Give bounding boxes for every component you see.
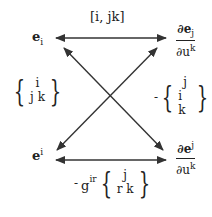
minus-sign: - (74, 176, 78, 190)
fraction-denominator: ∂uk (176, 159, 195, 177)
upper-index: i (36, 77, 40, 91)
symbol-indices: ij k (29, 77, 46, 105)
close-brace: } (50, 76, 61, 106)
diagonal-arrow-bl-tr (57, 48, 157, 150)
symbol-indices: ji k (177, 76, 193, 117)
lower-indices: r k (117, 183, 134, 197)
close-brace: } (197, 82, 208, 112)
lower-indices: i k (178, 90, 192, 118)
denominator-base: ∂u (176, 45, 190, 59)
fraction-numerator: ∂ej (176, 22, 195, 41)
diagonal-arrow-tl-br (64, 48, 163, 150)
node-de-sup-j-du-k-bottom: ∂ej ∂uk (176, 140, 195, 177)
node-e-sup-i: ei (32, 148, 43, 162)
open-brace: { (162, 82, 173, 112)
numerator-superscript: j (191, 140, 194, 150)
numerator-subscript: j (191, 28, 194, 38)
node-superscript: i (40, 147, 43, 157)
denominator-superscript: k (190, 161, 195, 171)
metric-christoffel-bottom: - gir { jr k } (74, 168, 154, 198)
node-de-j-du-k-top: ∂ej ∂uk (176, 22, 195, 59)
node-subscript: i (40, 37, 43, 47)
fraction-numerator: ∂ej (176, 140, 195, 159)
metric-g: gir (81, 174, 97, 193)
open-brace: { (100, 168, 111, 198)
metric-superscript: ir (89, 174, 96, 184)
christoffel-symbol-left: { ij k } (10, 76, 65, 106)
upper-index: j (183, 76, 187, 90)
open-brace: { (14, 76, 25, 106)
fraction-denominator: ∂uk (176, 41, 195, 59)
denominator-base: ∂u (176, 163, 190, 177)
christoffel-symbol-right: - { ji k } (154, 76, 212, 117)
top-edge-label: [i, jk] (90, 10, 124, 23)
lower-indices: j k (30, 91, 45, 105)
denominator-superscript: k (190, 43, 195, 53)
upper-index: j (123, 169, 127, 183)
minus-sign: - (154, 90, 158, 104)
numerator-base: ∂e (177, 22, 191, 36)
node-e-sub-i: ei (32, 30, 43, 47)
symbol-indices: jr k (116, 169, 135, 197)
close-brace: } (138, 168, 149, 198)
numerator-base: ∂e (177, 142, 191, 156)
